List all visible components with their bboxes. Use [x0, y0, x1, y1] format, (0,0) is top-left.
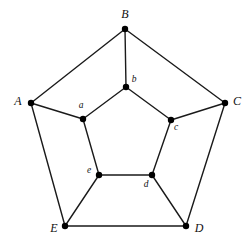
graph-vertex-e [96, 172, 102, 178]
vertex-label-C: C [233, 95, 241, 107]
graph-edge-a-b [83, 87, 126, 119]
graph-edge-C-D [186, 103, 225, 226]
vertex-label-A: A [14, 95, 21, 107]
graph-edge-b-c [126, 87, 171, 120]
graph-edge-E-e [65, 175, 99, 226]
graph-vertex-E [62, 223, 68, 229]
graph-vertex-B [122, 26, 128, 32]
graph-vertex-d [149, 172, 155, 178]
graph-edge-A-B [31, 29, 125, 103]
graph-edge-C-c [171, 103, 225, 120]
graph-vertex-A [28, 100, 34, 106]
graph-vertex-b [123, 84, 129, 90]
vertex-label-B: B [121, 8, 128, 20]
graph-diagram: ABCDEabcde [0, 0, 251, 246]
graph-vertex-a [80, 116, 86, 122]
graph-edge-c-d [152, 120, 171, 175]
graph-edge-E-A [31, 103, 65, 226]
graph-canvas [0, 0, 251, 246]
vertex-label-d: d [144, 180, 149, 190]
vertex-label-E: E [50, 222, 57, 234]
graph-edge-A-a [31, 103, 83, 119]
graph-vertex-D [183, 223, 189, 229]
graph-vertex-C [222, 100, 228, 106]
vertex-label-a: a [79, 101, 84, 111]
graph-edge-B-b [125, 29, 126, 87]
vertex-label-b: b [132, 75, 137, 85]
vertex-label-c: c [174, 123, 178, 133]
graph-edge-B-C [125, 29, 225, 103]
vertex-label-e: e [87, 166, 91, 176]
graph-edge-D-d [152, 175, 186, 226]
edge-layer [31, 29, 225, 226]
vertex-label-D: D [195, 222, 204, 234]
